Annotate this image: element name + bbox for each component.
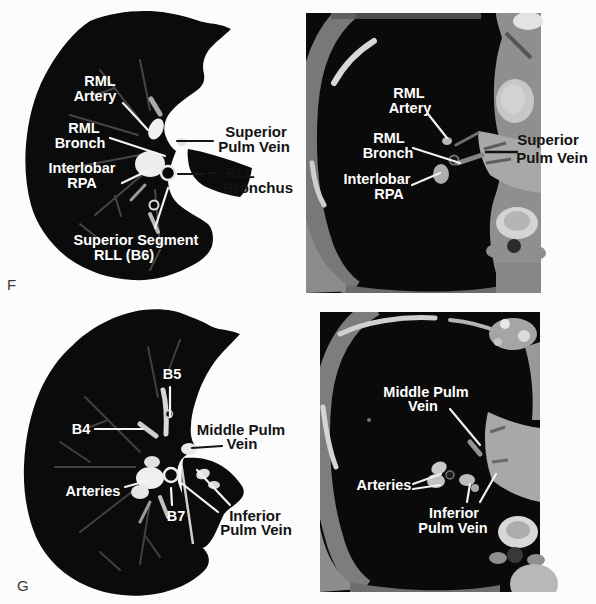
label-interlobar-rpa-line2: RPA [67,175,97,191]
label-interlobar-rpa-line1: Interlobar [49,160,116,176]
label-rll-bronchus-line2: Bronchus [223,179,293,196]
label-rml-artery-line1: RML [393,85,425,101]
label-superior-pulm-vein-line1: Superior [517,131,579,148]
label-middle-pulm-vein-line2: Vein [408,398,438,414]
right-lung-outline [24,309,240,596]
label-interlobar-rpa-line1: Interlobar [344,171,411,187]
inferior-pulm-vein-structure [459,474,475,486]
b7-bronchus-structure [164,468,178,482]
spinal-canal [507,239,521,253]
panel-f-soft-tissue-window: RML Artery RML Bronch Interlobar RPA Sup… [306,13,596,293]
label-b7: B7 [167,508,186,524]
label-middle-pulm-vein-line2: Vein [227,435,258,452]
label-superior-pulm-vein-line2: Pulm Vein [218,138,290,155]
b6-bronchus-structure [150,201,159,210]
label-superior-segment-line2: RLL (B6) [94,247,154,263]
panel-g-soft-tissue-window: Middle Pulm Vein Arteries Inferior Pulm … [320,312,596,592]
label-b4: B4 [72,421,91,437]
label-inferior-pulm-vein-line2: Pulm Vein [220,521,292,538]
label-rml-bronch-line2: Bronch [363,145,414,161]
spinal-canal [507,547,523,563]
label-arteries: Arteries [357,477,412,493]
panel-f-lung-window: RML Artery RML Bronch Interlobar RPA Sup… [0,0,300,300]
label-rml-bronch-line2: Bronch [55,135,106,151]
figure-page: RML Artery RML Bronch Interlobar RPA Sup… [0,0,596,604]
label-rml-artery-line1: RML [84,73,116,89]
label-arteries: Arteries [66,483,121,499]
label-superior-pulm-vein-line2: Pulm Vein [516,149,588,166]
label-b5: B5 [163,366,182,382]
panel-g-lung-window: B5 B4 Arteries B7 Middle Pulm Vein Infer… [0,302,300,604]
middle-pulm-vein-structure [181,443,197,455]
leader-b7 [171,488,172,505]
label-superior-segment-line1: Superior Segment [74,232,199,248]
panel-f-letter: F [7,276,16,293]
label-inferior-pulm-vein-line2: Pulm Vein [418,520,487,536]
label-rml-artery-line2: Artery [74,88,117,104]
label-rml-artery-line2: Artery [389,100,432,116]
label-interlobar-rpa-line2: RPA [374,186,404,202]
rll-bronchus-structure [161,166,175,180]
label-rml-bronch-line1: RML [68,120,100,136]
leader-middle-pulm-vein [192,446,222,448]
label-rml-bronch-line1: RML [373,130,405,146]
panel-g-letter: G [17,577,29,594]
label-inferior-pulm-vein-line1: Inferior [429,505,479,521]
